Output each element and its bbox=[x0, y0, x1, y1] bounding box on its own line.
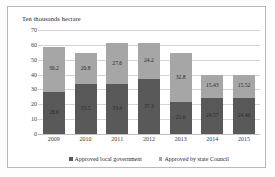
y-axis-tick-labels: 010203040506070 bbox=[22, 30, 38, 134]
gridline bbox=[38, 134, 260, 135]
bar-segment-state-council[interactable]: 24.2 bbox=[138, 43, 160, 79]
bar-value-label: 32.8 bbox=[176, 75, 186, 81]
bar-value-label: 27.6 bbox=[112, 61, 122, 67]
x-tick-label: 2013 bbox=[170, 136, 192, 142]
legend-swatch-icon bbox=[159, 157, 163, 161]
y-tick-label: 40 bbox=[31, 72, 37, 78]
bar-stack[interactable]: 15.5224.46 bbox=[233, 30, 255, 134]
bar-group: 30.228.620.833.527.633.424.237.332.821.6… bbox=[38, 30, 260, 134]
bar-segment-local-government[interactable]: 28.6 bbox=[43, 92, 65, 134]
y-tick-label: 70 bbox=[31, 27, 37, 33]
y-tick-label: 50 bbox=[31, 57, 37, 63]
bar-segment-local-government[interactable]: 21.6 bbox=[170, 102, 192, 134]
x-tick-label: 2010 bbox=[75, 136, 97, 142]
x-tick-label: 2015 bbox=[233, 136, 255, 142]
bar-stack[interactable]: 20.833.5 bbox=[75, 30, 97, 134]
bar-value-label: 24.46 bbox=[238, 113, 251, 119]
x-tick-label: 2009 bbox=[43, 136, 65, 142]
bar-value-label: 30.2 bbox=[49, 66, 59, 72]
bar-stack[interactable]: 27.633.4 bbox=[106, 30, 128, 134]
bar-segment-state-council[interactable]: 27.6 bbox=[106, 43, 128, 84]
bar-value-label: 15.43 bbox=[206, 83, 219, 89]
bar-value-label: 33.5 bbox=[81, 106, 91, 112]
legend-label: Approved local government bbox=[75, 156, 142, 162]
bar-value-label: 24.57 bbox=[206, 113, 219, 119]
x-tick-label: 2014 bbox=[201, 136, 223, 142]
bar-segment-local-government[interactable]: 37.3 bbox=[138, 79, 160, 134]
bar-segment-state-council[interactable]: 15.52 bbox=[233, 75, 255, 98]
bar-value-label: 37.3 bbox=[144, 104, 154, 110]
bar-segment-local-government[interactable]: 24.57 bbox=[201, 98, 223, 135]
y-tick-label: 60 bbox=[31, 42, 37, 48]
bar-stack[interactable]: 30.228.6 bbox=[43, 30, 65, 134]
legend-item[interactable]: Approved by state Council bbox=[159, 156, 229, 162]
chart-figure: Ten thousands hectare 010203040506070 30… bbox=[0, 0, 275, 177]
y-tick-label: 0 bbox=[34, 131, 37, 137]
y-tick-label: 20 bbox=[31, 101, 37, 107]
x-tick-label: 2012 bbox=[138, 136, 160, 142]
x-tick-label: 2011 bbox=[106, 136, 128, 142]
bar-segment-state-council[interactable]: 32.8 bbox=[170, 53, 192, 102]
bar-value-label: 28.6 bbox=[49, 110, 59, 116]
bar-segment-local-government[interactable]: 24.46 bbox=[233, 98, 255, 134]
chart-legend: Approved local governmentApproved by sta… bbox=[38, 153, 260, 165]
bar-segment-local-government[interactable]: 33.5 bbox=[75, 84, 97, 134]
legend-swatch-icon bbox=[69, 157, 73, 161]
legend-label: Approved by state Council bbox=[164, 156, 229, 162]
bar-value-label: 20.8 bbox=[81, 66, 91, 72]
plot-area: 30.228.620.833.527.633.424.237.332.821.6… bbox=[38, 30, 260, 134]
bar-value-label: 15.52 bbox=[238, 83, 251, 89]
bar-segment-local-government[interactable]: 33.4 bbox=[106, 84, 128, 134]
y-tick-label: 10 bbox=[31, 116, 37, 122]
x-axis-tick-labels: 2009201020112012201320142015 bbox=[38, 136, 260, 148]
bar-value-label: 24.2 bbox=[144, 58, 154, 64]
bar-stack[interactable]: 15.4324.57 bbox=[201, 30, 223, 134]
chart-frame: Ten thousands hectare 010203040506070 30… bbox=[7, 6, 266, 168]
y-tick-label: 30 bbox=[31, 86, 37, 92]
y-axis-title: Ten thousands hectare bbox=[22, 15, 81, 22]
bar-stack[interactable]: 32.821.6 bbox=[170, 30, 192, 134]
legend-item[interactable]: Approved local government bbox=[69, 156, 142, 162]
bar-stack[interactable]: 24.237.3 bbox=[138, 30, 160, 134]
bar-segment-state-council[interactable]: 20.8 bbox=[75, 53, 97, 84]
bar-value-label: 21.6 bbox=[176, 115, 186, 121]
bar-segment-state-council[interactable]: 30.2 bbox=[43, 47, 65, 92]
bar-value-label: 33.4 bbox=[112, 106, 122, 112]
bar-segment-state-council[interactable]: 15.43 bbox=[201, 75, 223, 98]
